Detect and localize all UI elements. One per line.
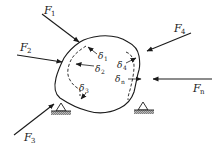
svg-text:1: 1 [104,55,108,62]
pin-support-right [134,102,154,114]
svg-text:δ: δ [79,83,84,93]
svg-text:δ: δ [98,51,103,61]
svg-text:3: 3 [31,137,35,145]
force-F3: F 3 [14,104,54,145]
displacement-d1: δ 1 [88,47,108,62]
force-Fn: F n [153,79,212,96]
svg-text:n: n [200,88,205,96]
displacement-d2: δ 2 [76,64,105,75]
displacement-d3: δ 3 [79,83,89,99]
svg-text:δ: δ [117,60,122,70]
svg-text:δ: δ [115,74,120,84]
force-F1: F 1 [42,4,79,42]
svg-text:δ: δ [95,64,100,74]
svg-text:2: 2 [101,68,105,75]
force-F2: F 2 [17,41,62,62]
svg-text:1: 1 [51,10,55,18]
svg-text:4: 4 [123,64,127,71]
svg-text:3: 3 [85,87,89,94]
svg-text:2: 2 [27,47,31,55]
svg-text:4: 4 [181,28,186,36]
svg-text:n: n [121,78,125,85]
force-F4: F 4 [147,22,191,51]
pin-support-left [51,103,71,115]
elastic-body-diagram: F 1 F 2 F 3 F 4 F n δ 1 δ 2 δ 3 δ [0,0,220,148]
